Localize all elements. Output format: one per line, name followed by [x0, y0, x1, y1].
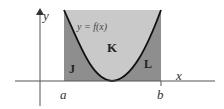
x-axis-label: x	[175, 68, 182, 83]
curve-label: y = f(x)	[76, 21, 108, 33]
y-axis-label: y	[41, 8, 49, 23]
bound-a-label: a	[60, 87, 67, 102]
region-l-label: L	[144, 57, 152, 71]
area-diagram: y x y = f(x) K J L a b	[0, 0, 224, 109]
region-k-label: K	[107, 40, 118, 55]
region-j-label: J	[69, 62, 75, 76]
bound-b-label: b	[157, 87, 164, 102]
